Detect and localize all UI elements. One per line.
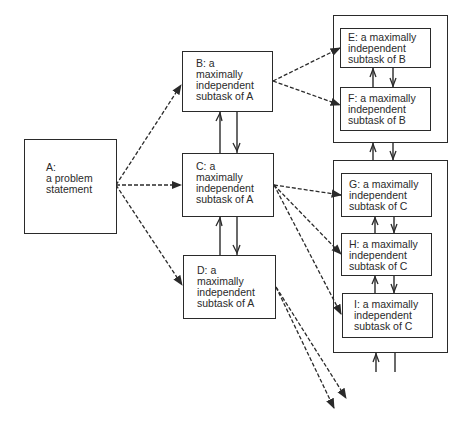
node-g-subtask: G: a maximally independent subtask of C (341, 173, 432, 217)
node-f-subtask: F: a maximally independent subtask of B (340, 87, 431, 131)
node-a-problem-statement: A: a problem statement (24, 139, 117, 234)
node-h-subtask: H: a maximally independent subtask of C (341, 233, 432, 276)
node-i-label: I: a maximally independent subtask of C (354, 299, 418, 332)
node-a-label: A: a problem statement (46, 162, 93, 195)
node-h-label: H: a maximally independent subtask of C (349, 239, 418, 272)
node-g-label: G: a maximally independent subtask of C (349, 179, 418, 212)
node-c-label: C: a maximally independent subtask of A (196, 161, 254, 205)
node-d-label: D: a maximally independent subtask of A (197, 265, 255, 309)
edge-d-out-1 (276, 287, 334, 408)
edge-c-g (274, 185, 341, 195)
node-i-subtask: I: a maximally independent subtask of C (342, 293, 433, 338)
edge-a-b (116, 85, 181, 185)
node-f-label: F: a maximally independent subtask of B (348, 93, 416, 126)
edge-b-f (273, 81, 340, 105)
edge-a-d (116, 185, 182, 285)
node-b-subtask: B: a maximally independent subtask of A (182, 51, 273, 112)
edge-b-e (273, 48, 340, 81)
node-e-subtask: E: a maximally independent subtask of B (340, 28, 431, 68)
decomposition-diagram: A: a problem statement B: a maximally in… (0, 0, 467, 425)
edge-c-h (274, 185, 341, 254)
node-b-label: B: a maximally independent subtask of A (196, 58, 254, 102)
edge-c-i (274, 185, 341, 314)
node-c-subtask: C: a maximally independent subtask of A (182, 153, 274, 217)
node-e-label: E: a maximally independent subtask of B (348, 32, 416, 65)
node-d-subtask: D: a maximally independent subtask of A (183, 255, 276, 319)
